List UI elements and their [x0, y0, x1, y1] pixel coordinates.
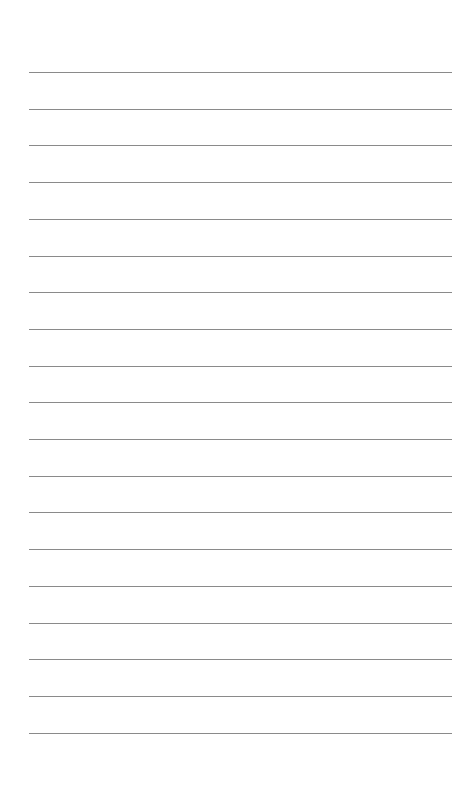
ruled-line — [29, 549, 452, 550]
ruled-line — [29, 219, 452, 220]
ruled-line — [29, 182, 452, 183]
ruled-line — [29, 366, 452, 367]
ruled-line — [29, 329, 452, 330]
ruled-line — [29, 256, 452, 257]
ruled-line — [29, 659, 452, 660]
ruled-line — [29, 145, 452, 146]
ruled-line — [29, 292, 452, 293]
ruled-line — [29, 402, 452, 403]
ruled-line — [29, 476, 452, 477]
ruled-line — [29, 72, 452, 73]
ruled-line — [29, 109, 452, 110]
ruled-line — [29, 512, 452, 513]
ruled-line — [29, 696, 452, 697]
ruled-line — [29, 586, 452, 587]
ruled-line — [29, 623, 452, 624]
lined-paper-page — [0, 0, 472, 793]
ruled-line — [29, 439, 452, 440]
ruled-line — [29, 733, 452, 734]
